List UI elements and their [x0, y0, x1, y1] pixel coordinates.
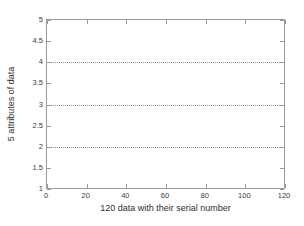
x-tick-label: 100: [238, 191, 251, 200]
x-tick-label: 120: [278, 191, 291, 200]
x-tick-label: 40: [121, 191, 129, 200]
y-tick-label: 4.5: [33, 36, 43, 45]
y-tick-mark: [47, 20, 51, 21]
x-tick-mark: [87, 184, 88, 188]
y-tick-mark: [47, 168, 51, 169]
y-tick-mark-right: [280, 62, 284, 63]
y-tick-mark-right: [280, 20, 284, 21]
x-tick-label: 60: [161, 191, 169, 200]
y-tick-mark: [47, 147, 51, 148]
x-tick-mark-top: [126, 20, 127, 24]
chart-figure: 120 data with their serial number 5 attr…: [0, 0, 304, 226]
y-tick-mark-right: [280, 105, 284, 106]
y-tick-label: 3: [39, 99, 43, 108]
x-axis-title: 120 data with their serial number: [46, 203, 285, 213]
x-tick-label: 80: [200, 191, 208, 200]
y-tick-mark-right: [280, 83, 284, 84]
y-tick-mark: [47, 105, 51, 106]
x-tick-mark: [245, 184, 246, 188]
y-tick-label: 5: [39, 15, 43, 24]
y-tick-label: 2.5: [33, 120, 43, 129]
x-tick-label: 20: [81, 191, 89, 200]
y-axis-title: 5 attributes of data: [6, 67, 16, 142]
y-tick-mark: [47, 189, 51, 190]
x-tick-mark-top: [245, 20, 246, 24]
y-tick-label: 1.5: [33, 162, 43, 171]
y-tick-mark-right: [280, 126, 284, 127]
x-tick-mark: [206, 184, 207, 188]
y-tick-mark: [47, 62, 51, 63]
x-tick-mark-top: [87, 20, 88, 24]
data-line-3: [47, 62, 284, 63]
y-tick-mark-right: [280, 147, 284, 148]
y-tick-mark-right: [280, 168, 284, 169]
y-tick-mark-right: [280, 41, 284, 42]
data-line-1: [47, 147, 284, 148]
x-tick-mark: [126, 184, 127, 188]
plot-area: [46, 19, 285, 189]
y-tick-label: 4: [39, 57, 43, 66]
y-tick-mark-right: [280, 189, 284, 190]
x-tick-mark-top: [166, 20, 167, 24]
x-tick-mark: [166, 184, 167, 188]
y-tick-mark: [47, 41, 51, 42]
y-tick-label: 3.5: [33, 78, 43, 87]
x-tick-mark: [47, 184, 48, 188]
y-tick-label: 2: [39, 141, 43, 150]
x-tick-mark: [285, 184, 286, 188]
data-line-2: [47, 105, 284, 106]
y-tick-mark: [47, 83, 51, 84]
x-tick-mark-top: [285, 20, 286, 24]
y-tick-label: 1: [39, 184, 43, 193]
x-tick-mark-top: [206, 20, 207, 24]
x-tick-label: 0: [44, 191, 48, 200]
y-tick-mark: [47, 126, 51, 127]
